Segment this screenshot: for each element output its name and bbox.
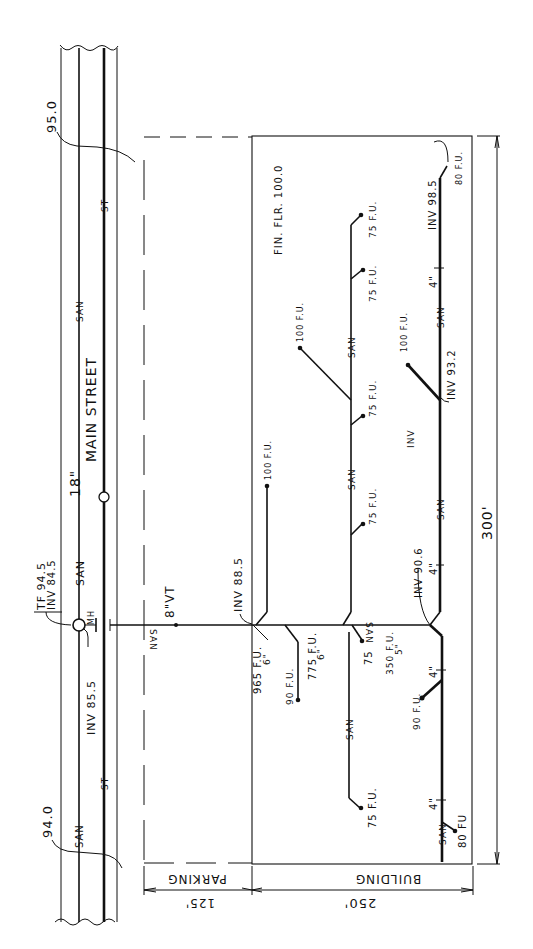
street-sewer-size: 18" <box>67 470 83 497</box>
contour-label-94: 94.0 <box>40 805 55 838</box>
fixture-label-75fu-4: 75 F.U. <box>368 488 378 525</box>
size-4in-top: 4" <box>428 275 439 288</box>
branch-b-fixture: 90 F.U. <box>285 668 295 705</box>
fixture-label-100fu-a: 100 F.U. <box>264 440 273 480</box>
branch-c: 75 F.U. 75 F.U. 100 F.U. 75 F.U. 75 F.U.… <box>296 201 378 828</box>
branch-d-san-bottom: SAN <box>438 823 448 845</box>
inv-88-5-label: INV 88.5 <box>232 557 245 612</box>
fixture-label-80fu-top: 80 F.U. <box>455 151 464 185</box>
storm-manhole-icon <box>99 492 109 502</box>
tf-leader <box>46 612 71 625</box>
dimension-length: 300' <box>479 505 495 540</box>
street-st-label-top: ST <box>100 199 110 212</box>
building-sewer: 8"VT SAN INV 88.5 965 F.U. 6" <box>110 557 430 694</box>
branch-c-san-top: SAN <box>347 336 357 358</box>
street-san-label-bottom: SAN <box>74 824 85 848</box>
parking-label: PARKING <box>167 872 227 886</box>
size-4in-junction: 4" <box>428 562 439 575</box>
main-fu-label: 965 F.U. <box>252 646 263 694</box>
branch-b-size: 6" <box>316 648 326 660</box>
fixture-dot <box>265 484 270 489</box>
site-plan-drawing: 95.0 94.0 ST ST SAN SAN SAN MAIN STREET … <box>0 0 533 949</box>
branch-d-san-mid: SAN <box>436 498 446 520</box>
contour-label-95: 95.0 <box>44 100 59 133</box>
contour-95 <box>57 132 135 162</box>
site-outline: PARKING BUILDING 125' 250' 300' FIN. FLR… <box>144 136 500 911</box>
dimension-building: 250' <box>344 896 376 911</box>
fixture-label-75fu-3: 75 F.U. <box>368 380 378 417</box>
street-st-label-bottom: ST <box>100 777 110 790</box>
street-san-label-top: SAN <box>75 300 85 322</box>
main-street: 95.0 94.0 ST ST SAN SAN SAN MAIN STREET … <box>34 45 135 925</box>
building-label: BUILDING <box>355 872 421 886</box>
branch-d-san-upside: SAN <box>364 622 374 644</box>
branch-a: 100 F.U. <box>256 440 273 625</box>
fixture-label-75fu-2: 75 F.U. <box>368 265 378 302</box>
size-4in-bottom: 4" <box>428 797 439 810</box>
main-size-label: 6" <box>262 653 272 665</box>
manhole-inv-in-label: INV 84.5 <box>46 559 57 610</box>
finished-floor-label: FIN. FLR. 100.0 <box>273 165 284 255</box>
branch-c-san-low: SAN <box>345 718 355 740</box>
street-san-label-mh: SAN <box>74 560 87 586</box>
inv-98-5-label: INV 98.5 <box>427 179 438 230</box>
fixture-label-90fu-d: 90 F.U. <box>412 693 422 730</box>
fixture-label-75-junction: 75 <box>363 650 374 665</box>
dimension-parking: 125' <box>185 896 215 910</box>
size-4in-lower: 4" <box>428 665 439 678</box>
fixture-label-75fu-1: 75 F.U. <box>368 201 378 238</box>
inv-short-label: INV <box>406 429 416 448</box>
sanitary-manhole-icon <box>73 619 85 631</box>
fixture-label-75fu-5: 75 F.U. <box>367 787 378 828</box>
fixture-label-80fu-bottom: 80 FU <box>457 814 468 848</box>
building-sewer-size: 8"VT <box>163 585 177 618</box>
break-line-bottom <box>55 919 115 925</box>
manhole-inv-out-label: INV 85.5 <box>85 680 98 735</box>
manhole-label: MH <box>87 610 96 625</box>
fixture-label-100fu-d: 100 F.U. <box>400 312 409 352</box>
branch-d-size: 5" <box>394 643 404 655</box>
building-sewer-san: SAN <box>148 629 158 651</box>
branch-d: SAN 350 F.U. 5" INV 98.5 80 F.U. 4" SAN … <box>364 141 468 862</box>
contour-94 <box>52 840 122 868</box>
branch-c-san-mid: SAN <box>347 468 357 490</box>
inv-90-6-label: INV 90.6 <box>413 547 424 598</box>
branch-d-san-top: SAN <box>436 306 446 328</box>
fixture-label-100fu: 100 F.U. <box>296 302 305 342</box>
street-name: MAIN STREET <box>83 357 99 462</box>
inv-93-2-label: INV 93.2 <box>446 349 457 400</box>
break-line-top <box>60 45 118 51</box>
branch-b: 775 F.U. 6" 90 F.U. <box>285 625 326 705</box>
